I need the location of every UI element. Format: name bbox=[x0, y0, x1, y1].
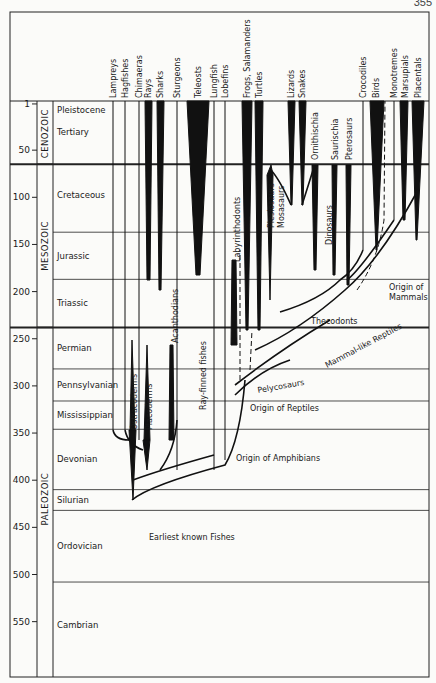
period-label: Mississippian bbox=[57, 410, 113, 420]
label-pterosaurs: Pterosaurs bbox=[345, 118, 354, 161]
tick-label: 50 bbox=[19, 145, 31, 155]
tick-label: 250 bbox=[13, 334, 30, 344]
label-dinosaurs: Dinosaurs bbox=[325, 205, 334, 245]
taxon-label: Snakes bbox=[298, 70, 307, 99]
label-ray-finned-fishes: Ray-finned fishes bbox=[199, 341, 208, 410]
time-axis: 150100150200250300350400450500550 bbox=[13, 99, 37, 627]
period-label: Ordovician bbox=[57, 541, 103, 551]
label-earliest-known-fishes: Earliest known Fishes bbox=[149, 533, 235, 542]
tick-label: 350 bbox=[13, 428, 30, 438]
era-label: PALEOZOIC bbox=[40, 473, 50, 526]
taxon-label: Rays bbox=[144, 79, 153, 98]
label-mammal-like-reptiles: Mammal-like Reptiles bbox=[324, 322, 404, 370]
tick-label: 200 bbox=[13, 287, 30, 297]
taxon-label: Placentals bbox=[414, 57, 423, 98]
label-origin-of-mammals-2: Mammals bbox=[389, 293, 428, 302]
label-origin-of-amphibians: Origin of Amphibians bbox=[236, 454, 320, 463]
period-label: Tertiary bbox=[56, 127, 89, 137]
label-labyrinthodonts: Labyrinthodonts bbox=[233, 197, 242, 262]
tick-label: 500 bbox=[13, 570, 30, 580]
label-ornithischia: Ornithischia bbox=[311, 112, 320, 160]
taxon-label: Monotremes bbox=[390, 48, 399, 98]
period-label: Pleistocene bbox=[57, 105, 106, 115]
taxon-label: Sturgeons bbox=[173, 57, 182, 98]
period-label: Cretaceous bbox=[57, 190, 106, 200]
taxon-label: Birds bbox=[372, 78, 381, 98]
label-placoderms: Placoderms bbox=[145, 384, 154, 430]
taxon-label: Marsupials bbox=[401, 55, 410, 98]
taxa-header: LampreysHagfishesChimaerasRaysSharksStur… bbox=[109, 19, 423, 99]
period-label: Permian bbox=[57, 343, 92, 353]
taxon-label: Turtles bbox=[255, 72, 264, 99]
taxon-label: Lobefins bbox=[221, 65, 230, 99]
taxon-label: Frogs, Salamanders bbox=[243, 19, 252, 98]
taxon-label: Hagfishes bbox=[121, 59, 130, 98]
taxon-label: Lungfish bbox=[210, 64, 219, 98]
taxon-label: Sharks bbox=[156, 71, 165, 98]
label-origin-of-mammals-1: Origin of bbox=[389, 283, 424, 292]
taxon-label: Lizards bbox=[287, 70, 296, 98]
tick-label: 400 bbox=[13, 475, 30, 485]
tick-label: 1 bbox=[24, 99, 30, 109]
taxon-label: Chimaeras bbox=[135, 55, 144, 98]
label-acanthodians: Acanthodians bbox=[171, 289, 180, 343]
vertebrate-evolution-diagram: 150100150200250300350400450500550 CENOZO… bbox=[0, 0, 436, 683]
tick-label: 550 bbox=[13, 617, 30, 627]
label-origin-of-reptiles: Origin of Reptiles bbox=[250, 404, 319, 413]
label-ostracoderms: Ostracoderms bbox=[130, 374, 139, 430]
lineages bbox=[113, 101, 424, 500]
label-plesiosaurs: Plesiosaurs bbox=[267, 183, 276, 228]
period-label: Silurian bbox=[57, 495, 89, 505]
tick-label: 450 bbox=[13, 522, 30, 532]
period-label: Devonian bbox=[57, 454, 97, 464]
tick-label: 150 bbox=[13, 239, 30, 249]
label-pelycosaurs: Pelycosaurs bbox=[257, 378, 305, 395]
tick-label: 300 bbox=[13, 381, 30, 391]
taxon-label: Crocodiles bbox=[359, 57, 368, 99]
period-label: Cambrian bbox=[57, 620, 98, 630]
era-column: CENOZOICMESOZOICPALEOZOIC bbox=[37, 109, 53, 525]
taxon-label: Teleosts bbox=[194, 66, 203, 99]
taxon-label: Lampreys bbox=[109, 59, 118, 98]
label-mosasaurs: Mosasaurs bbox=[277, 186, 286, 228]
label-saurischia: Saurischia bbox=[331, 119, 340, 160]
label-thecodonts: Thecodonts bbox=[310, 317, 358, 326]
period-label: Triassic bbox=[56, 298, 88, 308]
period-label: Pennsylvanian bbox=[57, 380, 118, 390]
tick-label: 100 bbox=[13, 192, 30, 202]
period-label: Jurassic bbox=[56, 251, 90, 261]
era-label: CENOZOIC bbox=[40, 109, 50, 158]
era-label: MESOZOIC bbox=[40, 221, 50, 271]
period-rows: PleistoceneTertiaryCretaceousJurassicTri… bbox=[10, 105, 429, 630]
